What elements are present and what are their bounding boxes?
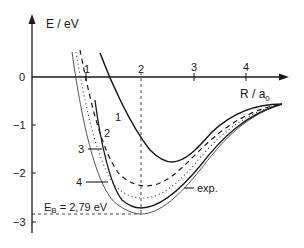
- x-tick-label-3: 3: [191, 61, 197, 73]
- y-axis-label: E / eV: [46, 17, 79, 31]
- x-tick-label-2: 2: [138, 63, 144, 75]
- curve-4-label: 4: [76, 176, 82, 188]
- curve-3-label: 3: [78, 143, 84, 155]
- x-axis-arrow-icon: [279, 74, 289, 81]
- diagram-canvas: E / eV R / a0 0 −1 −2 −3 2 3 4 1 1 2 3 4…: [0, 0, 304, 248]
- y-tick-label-0: 0: [19, 71, 25, 83]
- curve-1-upper-label: 1: [84, 63, 90, 75]
- potential-energy-diagram: E / eV R / a0 0 −1 −2 −3 2 3 4 1 1 2 3 4…: [0, 0, 304, 248]
- curve-4: [95, 100, 282, 208]
- curve-3: [76, 52, 282, 198]
- x-tick-label-4: 4: [243, 61, 249, 73]
- y-tick-label-m1: −1: [13, 119, 26, 131]
- curve-exp-label: exp.: [197, 182, 218, 194]
- binding-energy-label: EB = 2,79 eV: [44, 201, 108, 215]
- y-tick-label-m2: −2: [13, 167, 26, 179]
- curve-1-label: 1: [115, 111, 121, 123]
- x-axis-label: R / a0: [240, 87, 270, 103]
- curve-2-label: 2: [104, 127, 110, 139]
- y-axis-arrow-icon: [29, 14, 36, 24]
- y-tick-label-m3: −3: [13, 216, 26, 228]
